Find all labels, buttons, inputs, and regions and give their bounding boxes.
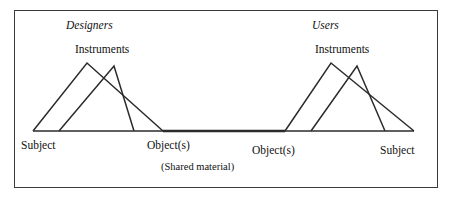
node-label-instruments-left: Instruments [75, 44, 129, 56]
designers-subject-triangle [33, 63, 163, 131]
caption-shared-material: (Shared material) [161, 162, 234, 173]
node-label-subject-right: Subject [380, 145, 415, 157]
node-label-object-right: Object(s) [252, 145, 295, 157]
users-subject-triangle [285, 63, 414, 131]
group-label-designers: Designers [66, 20, 113, 32]
node-label-instruments-right: Instruments [315, 44, 369, 56]
node-label-subject-left: Subject [21, 140, 56, 152]
node-label-object-left: Object(s) [147, 140, 190, 152]
figure-canvas: Designers Users Instruments Instruments … [0, 0, 453, 205]
group-label-users: Users [312, 20, 339, 32]
designers-instrument-triangle [59, 66, 134, 131]
